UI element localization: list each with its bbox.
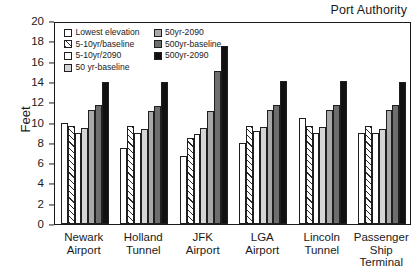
- legend-label: 5-10yr/2090: [76, 51, 122, 61]
- bar-p50base: [260, 127, 267, 224]
- legend-item-p5102090[interactable]: 5-10yr/2090: [64, 51, 140, 61]
- x-axis-label: Newark Airport: [50, 231, 118, 256]
- legend-label: 50 yr-baseline: [76, 63, 130, 73]
- legend-label: 500yr-baseline: [165, 40, 221, 50]
- legend-swatch-p502090: [154, 29, 162, 37]
- legend-item-p510base[interactable]: 5-10yr/baseline: [64, 40, 140, 50]
- legend-label: 500yr-2090: [165, 51, 208, 61]
- legend-swatch-p510base: [64, 40, 72, 48]
- bar-p500base: [273, 105, 280, 224]
- bar-p502090: [267, 110, 274, 224]
- y-tick-label: 6: [14, 158, 44, 170]
- legend-column: Lowest elevation5-10yr/baseline5-10yr/20…: [64, 28, 140, 73]
- bar-p502090: [148, 111, 155, 224]
- bar-p510base: [127, 126, 134, 224]
- bar-p50base: [319, 127, 326, 224]
- bar-p5102090: [134, 133, 141, 224]
- bar-p5102090: [253, 131, 260, 224]
- y-tick-label: 0: [14, 219, 44, 231]
- y-tick-label: 16: [14, 57, 44, 69]
- y-tick-label: 18: [14, 37, 44, 49]
- y-tick-label: 14: [14, 77, 44, 89]
- bar-p500base: [154, 106, 161, 224]
- bar-p5002090: [161, 82, 168, 224]
- bar-p510base: [246, 126, 253, 224]
- legend-swatch-lowest: [64, 29, 72, 37]
- bar-p510base: [365, 126, 372, 224]
- y-tick-label: 8: [14, 138, 44, 150]
- legend-column: 50yr-2090500yr-baseline500yr-2090: [154, 28, 222, 73]
- x-axis-label: Lincoln Tunnel: [288, 231, 356, 256]
- bar-p502090: [386, 110, 393, 224]
- bar-lowest: [61, 123, 68, 225]
- bar-p510base: [187, 138, 194, 224]
- legend-label: 50yr-2090: [165, 28, 204, 38]
- legend-label: Lowest elevation: [76, 28, 140, 38]
- y-tick-label: 2: [14, 199, 44, 211]
- legend-item-p500base[interactable]: 500yr-baseline: [154, 40, 222, 50]
- bar-lowest: [180, 156, 187, 224]
- bar-p5002090: [399, 82, 406, 224]
- bar-p510base: [306, 126, 313, 224]
- legend-swatch-p5002090: [154, 52, 162, 60]
- bar-p50base: [81, 128, 88, 224]
- bar-p50base: [141, 129, 148, 224]
- bar-p500base: [333, 105, 340, 224]
- bar-p5102090: [372, 133, 379, 224]
- y-tick-label: 12: [14, 97, 44, 109]
- bar-p500base: [392, 105, 399, 224]
- bar-p502090: [207, 111, 214, 224]
- x-axis-label: LGA Airport: [229, 231, 297, 256]
- legend-label: 5-10yr/baseline: [76, 40, 135, 50]
- bar-p502090: [88, 110, 95, 224]
- chart-root: Port Authority Feet 02468101214161820 Ne…: [0, 0, 419, 276]
- bar-p5102090: [313, 133, 320, 224]
- bar-lowest: [239, 143, 246, 224]
- bar-lowest: [120, 148, 127, 224]
- x-axis-label: Passenger Ship Terminal: [348, 231, 416, 269]
- legend-item-lowest[interactable]: Lowest elevation: [64, 28, 140, 38]
- bar-p5102090: [75, 133, 82, 224]
- legend-swatch-p50base: [64, 64, 72, 72]
- bar-lowest: [358, 133, 365, 224]
- bar-p500base: [214, 71, 221, 224]
- y-tick-label: 10: [14, 118, 44, 130]
- bar-p500base: [95, 105, 102, 224]
- bar-p5002090: [340, 81, 347, 224]
- legend-swatch-p500base: [154, 40, 162, 48]
- legend-item-p502090[interactable]: 50yr-2090: [154, 28, 222, 38]
- x-axis-label: Holland Tunnel: [110, 231, 178, 256]
- bar-p50base: [200, 128, 207, 224]
- bar-p50base: [379, 129, 386, 224]
- bar-lowest: [299, 118, 306, 224]
- y-tick-label: 4: [14, 179, 44, 191]
- legend-item-p5002090[interactable]: 500yr-2090: [154, 51, 222, 61]
- legend-swatch-p5102090: [64, 52, 72, 60]
- y-tick-label: 20: [14, 16, 44, 28]
- chart-legend: Lowest elevation5-10yr/baseline5-10yr/20…: [64, 28, 221, 73]
- bar-p5002090: [280, 81, 287, 224]
- x-axis-label: JFK Airport: [169, 231, 237, 256]
- bar-p510base: [68, 126, 75, 224]
- bar-p5002090: [102, 82, 109, 224]
- legend-item-p50base[interactable]: 50 yr-baseline: [64, 63, 140, 73]
- bar-p5002090: [221, 46, 228, 224]
- bar-p5102090: [194, 134, 201, 224]
- bar-p502090: [326, 110, 333, 224]
- chart-title: Port Authority: [331, 3, 407, 17]
